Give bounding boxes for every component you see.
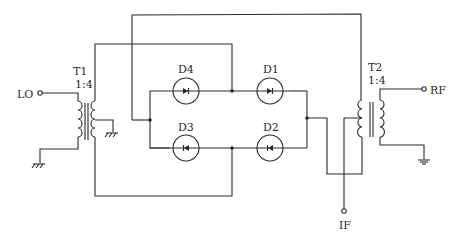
- t2-secondary-coil-icon: [380, 100, 384, 137]
- rf-terminal-icon: [422, 87, 426, 91]
- diode-d3: D3: [173, 121, 199, 161]
- d4-label: D4: [178, 63, 194, 76]
- d1-label: D1: [263, 63, 279, 76]
- lo-port: LO: [17, 88, 78, 101]
- t2-name: T2: [368, 61, 382, 74]
- lo-terminal-icon: [38, 91, 42, 95]
- t1-name: T1: [73, 65, 87, 78]
- mixer-schematic: LO T1 1:4: [0, 0, 459, 241]
- t1-primary-coil-icon: [78, 101, 82, 137]
- transformer-t2: T2 1:4: [358, 61, 430, 164]
- ground-icon: [105, 133, 118, 137]
- diode-d2: D2: [257, 121, 283, 161]
- wiring: [95, 14, 362, 209]
- d3-label: D3: [178, 121, 194, 134]
- t1-secondary-coil-icon: [91, 101, 95, 137]
- lo-label: LO: [17, 88, 33, 101]
- diode-d1: D1: [257, 63, 283, 104]
- if-port: IF: [339, 209, 351, 232]
- if-terminal-icon: [342, 209, 346, 213]
- rf-port: RF: [422, 84, 446, 97]
- if-label: IF: [339, 219, 351, 232]
- t2-ratio: 1:4: [368, 74, 386, 87]
- ground-icon: [32, 164, 45, 168]
- transformer-t1: T1 1:4: [32, 65, 118, 168]
- ground-icon: [418, 160, 430, 164]
- rf-label: RF: [430, 84, 446, 97]
- t1-ratio: 1:4: [75, 78, 93, 91]
- diode-d4: D4: [173, 63, 199, 104]
- d2-label: D2: [263, 121, 279, 134]
